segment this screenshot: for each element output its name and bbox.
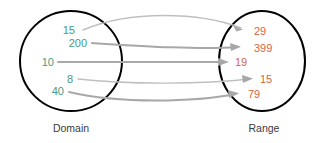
domain-value-0: 15 bbox=[63, 24, 75, 36]
mapping-diagram-canvas: 15 200 10 8 40 29 399 19 15 79 Domain Ra… bbox=[0, 0, 329, 143]
range-value-1: 399 bbox=[254, 42, 272, 54]
mapping-arrow-10-to-19 bbox=[58, 58, 229, 66]
mapping-arrow-200-to-399 bbox=[92, 43, 241, 51]
mapping-arrow-15-to-29 bbox=[83, 16, 243, 32]
range-set-label: Range bbox=[249, 122, 280, 134]
range-value-2: 19 bbox=[235, 56, 247, 68]
range-value-3: 15 bbox=[260, 73, 272, 85]
range-value-0: 29 bbox=[254, 25, 266, 37]
range-value-4: 79 bbox=[248, 88, 260, 100]
mapping-arrow-40-to-79 bbox=[69, 90, 239, 101]
domain-value-4: 40 bbox=[52, 85, 64, 97]
domain-value-1: 200 bbox=[69, 37, 87, 49]
domain-value-3: 8 bbox=[67, 73, 73, 85]
mapping-diagram: 15 200 10 8 40 29 399 19 15 79 Domain Ra… bbox=[0, 0, 329, 143]
domain-set-label: Domain bbox=[53, 122, 89, 134]
mapping-arrow-8-to-15 bbox=[78, 75, 253, 83]
domain-value-2: 10 bbox=[42, 56, 54, 68]
